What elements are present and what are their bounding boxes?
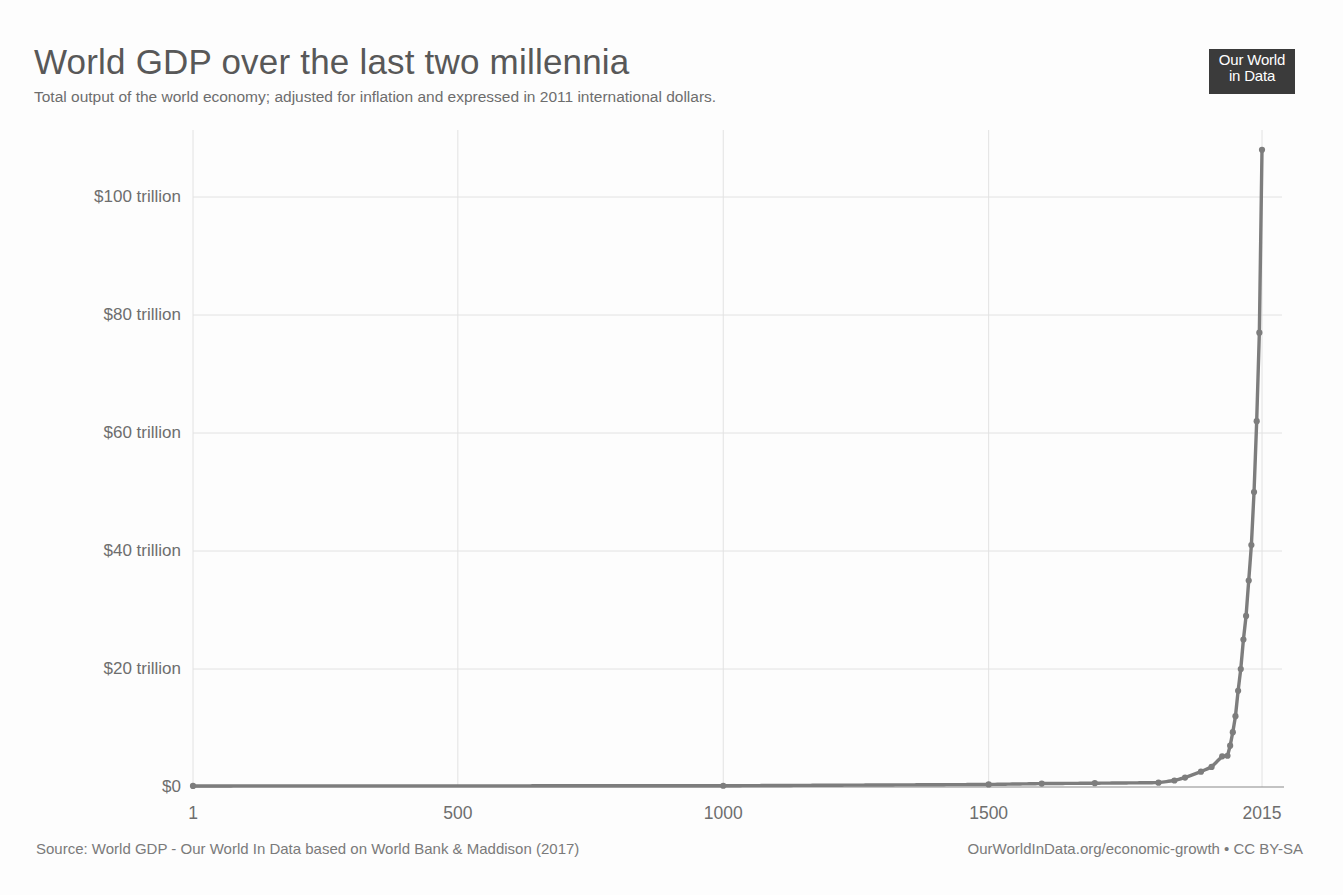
gdp-line-chart-svg — [0, 0, 1343, 895]
data-point — [720, 783, 726, 789]
chart-header: World GDP over the last two millennia To… — [34, 44, 1144, 106]
data-point — [190, 783, 196, 789]
series-markers-world-gdp — [190, 147, 1265, 789]
data-point — [1248, 542, 1254, 548]
data-point — [1198, 769, 1204, 775]
x-axis-tick-label: 1000 — [704, 803, 743, 824]
data-point — [1182, 774, 1188, 780]
license-note[interactable]: OurWorldInData.org/economic-growth • CC … — [968, 840, 1303, 857]
data-point — [1227, 743, 1233, 749]
data-point — [1230, 729, 1236, 735]
y-axis-tick-label: $60 trillion — [0, 423, 181, 443]
data-point — [1171, 777, 1177, 783]
y-axis-tick-label: $40 trillion — [0, 541, 181, 561]
chart-plot-area: $0$20 trillion$40 trillion$60 trillion$8… — [0, 0, 1343, 895]
y-axis-tick-label: $0 — [0, 777, 181, 797]
x-axis-tick-label: 2015 — [1243, 803, 1282, 824]
data-point — [1232, 713, 1238, 719]
logo-line-2: in Data — [1211, 68, 1293, 84]
gridlines-horizontal — [193, 197, 1282, 669]
data-point — [1243, 613, 1249, 619]
series-line-world-gdp — [193, 150, 1262, 786]
our-world-in-data-logo[interactable]: Our World in Data — [1209, 49, 1295, 94]
y-axis-tick-label: $20 trillion — [0, 659, 181, 679]
x-axis-tick-label: 1500 — [969, 803, 1008, 824]
data-point — [1039, 780, 1045, 786]
data-point — [1254, 418, 1260, 424]
data-point — [1208, 764, 1214, 770]
data-point — [1155, 780, 1161, 786]
data-point — [1238, 666, 1244, 672]
x-axis-tick-label: 1 — [188, 803, 198, 824]
source-note: Source: World GDP - Our World In Data ba… — [36, 840, 579, 857]
data-point — [1219, 753, 1225, 759]
data-point — [1259, 147, 1265, 153]
chart-footer: Source: World GDP - Our World In Data ba… — [36, 840, 1303, 857]
gridlines-vertical — [193, 130, 1262, 787]
data-point — [1251, 489, 1257, 495]
data-point — [1240, 636, 1246, 642]
chart-page: World GDP over the last two millennia To… — [0, 0, 1343, 895]
data-point — [1246, 577, 1252, 583]
page-title: World GDP over the last two millennia — [34, 44, 1144, 81]
x-axis-tick-label: 500 — [443, 803, 472, 824]
data-point — [986, 781, 992, 787]
chart-subtitle: Total output of the world economy; adjus… — [34, 88, 1144, 107]
data-point — [1256, 330, 1262, 336]
logo-line-1: Our World — [1211, 52, 1293, 68]
y-axis-tick-label: $80 trillion — [0, 305, 181, 325]
data-point — [1235, 688, 1241, 694]
y-axis-tick-label: $100 trillion — [0, 187, 181, 207]
data-point — [1224, 753, 1230, 759]
data-point — [1092, 780, 1098, 786]
